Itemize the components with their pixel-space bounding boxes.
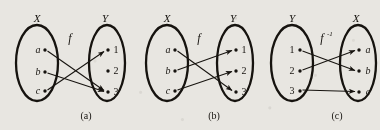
panel-a-node-3-dot	[106, 90, 109, 93]
panel-b-arrow-b-to-1	[178, 51, 233, 71]
panel-c-map-label: f	[320, 31, 325, 45]
panel-c-node-a-dot	[357, 48, 360, 51]
panel-a-node-2-dot	[106, 69, 109, 72]
panel-c-node-b-dot	[357, 69, 360, 72]
panel-b-node-2-dot	[234, 69, 237, 72]
panel-a-node-1-label: 1	[114, 44, 119, 55]
panel-c-caption: (c)	[331, 110, 342, 122]
panel-b-right-set-label: Y	[230, 12, 238, 24]
panel-b-left-set-label: X	[163, 12, 172, 24]
panel-a-node-1-dot	[106, 48, 109, 51]
panel-a-node-3-label: 3	[114, 86, 119, 97]
panel-a-node-c-dot	[43, 89, 46, 92]
panel-b-node-3-dot	[234, 90, 237, 93]
panel-c-node-1-dot	[298, 48, 301, 51]
panel-c-node-c-dot	[357, 90, 360, 93]
panel-b-node-c-dot	[173, 89, 176, 92]
panel-b-node-1-dot	[234, 48, 237, 51]
panel-b: X Y f a b c 1 2 3 (b)	[146, 12, 253, 122]
panel-a-node-b-label: b	[36, 66, 41, 77]
panel-a-node-b-dot	[43, 70, 46, 73]
panel-b-map-label: f	[197, 31, 202, 45]
panel-b-node-b-label: b	[166, 65, 171, 76]
panel-c-right-set-label: X	[352, 12, 361, 24]
panel-c-node-2-dot	[298, 69, 301, 72]
panel-c-map-label-group: f -1	[320, 30, 333, 45]
panel-c-node-2-label: 2	[290, 65, 295, 76]
panel-c-node-c-label: c	[366, 86, 371, 97]
panel-a-map-label: f	[68, 31, 73, 45]
panel-a-node-a-dot	[43, 48, 46, 51]
panel-c: Y X f -1 1 2 3 a b c (c)	[271, 12, 376, 122]
panel-b-node-a-dot	[173, 48, 176, 51]
panel-a: X Y f a b c 1 2 3 (a)	[16, 12, 125, 122]
panel-b-node-c-label: c	[166, 85, 171, 96]
panel-c-node-3-dot	[298, 89, 301, 92]
panel-c-right-set-ellipse	[340, 25, 376, 101]
panel-b-node-a-label: a	[166, 44, 171, 55]
panel-b-node-b-dot	[173, 69, 176, 72]
panel-a-left-set-label: X	[33, 12, 42, 24]
panel-c-node-3-label: 3	[290, 85, 295, 96]
panel-b-right-set-ellipse	[217, 25, 253, 101]
mapping-diagram-figure: X Y f a b c 1 2 3 (a) X Y f a b	[0, 0, 380, 130]
panel-b-caption: (b)	[208, 110, 220, 122]
panel-a-caption: (a)	[80, 110, 91, 122]
panel-a-right-set-label: Y	[102, 12, 110, 24]
panel-c-arrow-3-to-c	[303, 90, 356, 92]
panel-c-node-1-label: 1	[290, 44, 295, 55]
panel-c-node-a-label: a	[366, 44, 371, 55]
panel-b-node-3-label: 3	[242, 86, 247, 97]
panel-c-left-set-label: Y	[289, 12, 297, 24]
panel-c-map-label-superscript: -1	[327, 30, 333, 38]
panel-a-right-set-ellipse	[89, 25, 125, 101]
panel-b-node-1-label: 1	[242, 44, 247, 55]
panel-a-node-c-label: c	[36, 85, 41, 96]
panel-a-node-a-label: a	[36, 44, 41, 55]
panel-b-arrow-a-to-3	[178, 51, 233, 91]
panel-c-node-b-label: b	[366, 65, 371, 76]
panel-b-node-2-label: 2	[242, 65, 247, 76]
panel-a-node-2-label: 2	[114, 65, 119, 76]
